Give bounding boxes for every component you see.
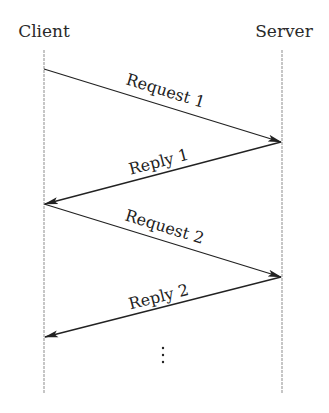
arrow-right-icon — [44, 204, 281, 277]
actor-server-label: Server — [255, 21, 313, 41]
vertical-ellipsis-icon — [162, 347, 164, 363]
message-label: Request 1 — [124, 70, 207, 112]
message-reply-2: Reply 2 — [45, 277, 281, 337]
message-reply-1: Reply 1 — [45, 142, 281, 204]
message-request-2: Request 2 — [44, 204, 281, 277]
sequence-diagram: Client Server Request 1 Reply 1 Request … — [0, 0, 329, 413]
actor-client-label: Client — [18, 21, 70, 41]
message-request-1: Request 1 — [44, 69, 281, 142]
